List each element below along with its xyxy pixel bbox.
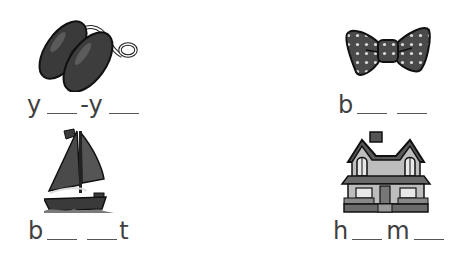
- boat-word-prompt: b t: [28, 219, 129, 243]
- letter: -y: [80, 93, 102, 117]
- letter: b: [338, 93, 353, 117]
- blank-line[interactable]: [87, 238, 117, 240]
- letter: m: [386, 219, 409, 243]
- blank-line[interactable]: [352, 238, 382, 240]
- bow-word-prompt: b: [338, 93, 427, 117]
- blank-line[interactable]: [357, 112, 387, 114]
- letter: b: [28, 219, 43, 243]
- blank-line[interactable]: [397, 112, 427, 114]
- house-picture-icon: [340, 130, 432, 214]
- blank-line[interactable]: [47, 112, 77, 114]
- yoyo-picture-icon: [30, 10, 142, 92]
- blank-line[interactable]: [109, 112, 139, 114]
- bow-picture-icon: [344, 22, 432, 82]
- yoyo-word-prompt: y -y: [27, 93, 139, 117]
- boat-picture-icon: [44, 127, 124, 213]
- blank-line[interactable]: [414, 238, 444, 240]
- letter: t: [119, 219, 128, 243]
- home-word-prompt: h m: [333, 219, 444, 243]
- letter: y: [27, 93, 41, 117]
- blank-line[interactable]: [47, 238, 77, 240]
- letter: h: [333, 219, 348, 243]
